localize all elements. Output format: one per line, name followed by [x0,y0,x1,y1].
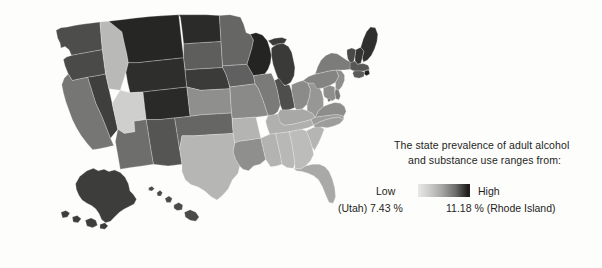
legend-high-label: High [478,185,500,197]
state-sd[interactable] [184,42,223,70]
state-mn[interactable] [219,15,253,66]
legend-low-label: Low [376,185,395,197]
legend-gradient-bar [418,184,470,197]
legend-gradient-row: Low High [338,182,602,200]
state-nd[interactable] [179,15,221,44]
legend-values-row: (Utah) 7.43 % 11.18 % (Rhode Island) [338,202,602,218]
legend-low-value: (Utah) 7.43 % [338,202,403,214]
caption-line-1: The state prevalence of adult alcohol [394,138,569,153]
state-wa[interactable] [56,22,102,55]
figure-container: The state prevalence of adult alcohol an… [0,0,602,268]
legend-block: The state prevalence of adult alcohol an… [338,134,602,230]
state-ks[interactable] [187,87,232,116]
state-co[interactable] [143,87,190,120]
state-hi[interactable] [149,186,199,221]
state-ct[interactable] [353,71,364,78]
caption-line-2: and substance use ranges from: [408,153,561,168]
state-me[interactable] [361,27,378,62]
state-tx[interactable] [180,133,240,200]
us-map-svg [0,6,390,264]
state-ak[interactable] [61,168,137,229]
state-ne[interactable] [185,68,230,91]
legend-high-value: 11.18 % (Rhode Island) [446,202,556,214]
state-fl[interactable] [293,164,335,203]
state-vt[interactable] [347,48,356,63]
state-wy[interactable] [126,58,187,93]
state-ri[interactable] [364,70,370,76]
us-choropleth-map [0,6,390,264]
